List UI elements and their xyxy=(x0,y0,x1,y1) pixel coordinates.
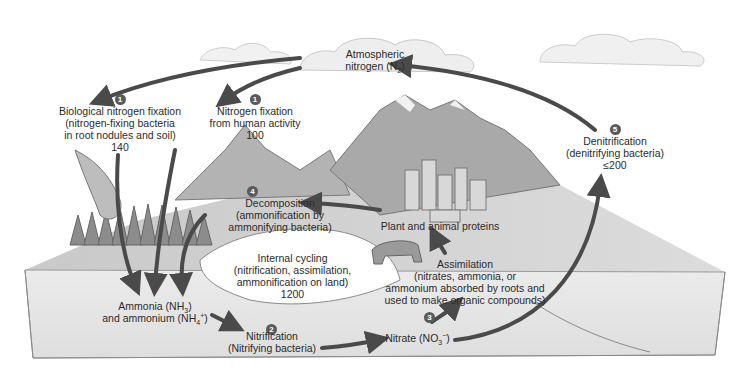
step-badge-1b: 1 xyxy=(250,94,261,105)
ammonia-label: Ammonia (NH3) and ammonium (NH4+) xyxy=(95,300,215,324)
assim-line2: (nitrates, ammonia, or xyxy=(365,270,565,282)
nitrif-line1: Nitrification xyxy=(222,330,322,342)
denit-line2: (denitrifying bacteria) xyxy=(555,147,675,159)
assim-line3: ammonium absorbed by roots and xyxy=(365,282,565,294)
clouds xyxy=(200,34,704,72)
nitrate-line: Nitrate (NO3−) xyxy=(380,332,455,344)
atmospheric-nitrogen-label: Atmospheric nitrogen (N2) xyxy=(320,48,430,72)
denit-line1: Denitrification xyxy=(555,135,675,147)
denit-value: ≤200 xyxy=(555,159,675,171)
human-value: 100 xyxy=(190,129,320,141)
ic-line3: ammonification on land) xyxy=(225,276,360,288)
decomp-line2: (ammonification by xyxy=(225,209,335,221)
proteins-line1: Plant and animal proteins xyxy=(370,220,510,232)
nitrification-label: Nitrification (Nitrifying bacteria) xyxy=(222,330,322,354)
step-badge-4: 4 xyxy=(247,186,258,197)
atm-line2: nitrogen (N2) xyxy=(320,60,430,72)
ic-value: 1200 xyxy=(225,288,360,300)
human-line1: Nitrogen fixation xyxy=(190,105,320,117)
ic-line2: (nitrification, assimilation, xyxy=(225,264,360,276)
human-fixation-label: 1 Nitrogen fixation from human activity … xyxy=(190,92,320,141)
decomposition-label: 4 Decomposition (ammonification by ammon… xyxy=(225,184,335,233)
step-badge-3-wrap: 3 xyxy=(424,306,435,324)
step-badge-5: 5 xyxy=(610,124,621,135)
step-badge-1: 1 xyxy=(115,94,126,105)
atm-line1: Atmospheric xyxy=(320,48,430,60)
decomp-line3: ammonifying bacteria) xyxy=(225,221,335,233)
internal-cycling-label: Internal cycling (nitrification, assimil… xyxy=(225,252,360,300)
ammonia-line1: Ammonia (NH3) xyxy=(95,300,215,312)
decomp-line1: Decomposition xyxy=(225,197,335,209)
bio-line3: in root nodules and soil) xyxy=(40,129,200,141)
human-line2: from human activity xyxy=(190,117,320,129)
assim-line1: Assimilation xyxy=(365,258,565,270)
ic-line1: Internal cycling xyxy=(225,252,360,264)
bio-line2: (nitrogen-fixing bacteria xyxy=(40,117,200,129)
proteins-label: Plant and animal proteins xyxy=(370,220,510,232)
bio-line1: Biological nitrogen fixation xyxy=(40,105,200,117)
bio-value: 140 xyxy=(40,141,200,153)
nitrif-line2: (Nitrifying bacteria) xyxy=(222,342,322,354)
biological-fixation-label: 1 Biological nitrogen fixation (nitrogen… xyxy=(40,92,200,153)
nitrate-label: Nitrate (NO3−) xyxy=(380,332,455,344)
ammonia-line2: and ammonium (NH4+) xyxy=(95,312,215,324)
step-badge-3: 3 xyxy=(424,312,435,323)
eagle xyxy=(75,150,121,219)
assimilation-label: Assimilation (nitrates, ammonia, or ammo… xyxy=(365,258,565,306)
assim-line4: used to make organic compounds) xyxy=(365,294,565,306)
denitrification-label: 5 Denitrification (denitrifying bacteria… xyxy=(555,122,675,171)
